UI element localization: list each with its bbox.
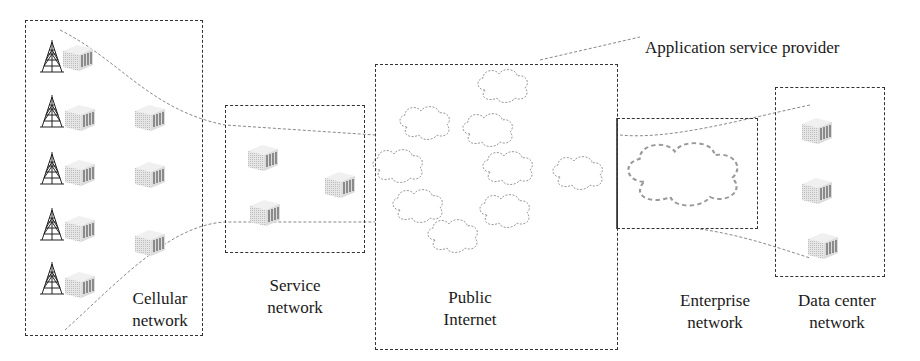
label-line2: Internet [420, 309, 520, 331]
label-line1: Public [420, 287, 520, 309]
label-public: Public Internet [420, 287, 520, 331]
label-line2: network [245, 297, 345, 319]
label-line2: network [782, 312, 892, 334]
callout-label: Application service provider [645, 37, 840, 59]
label-cellular: Cellular network [118, 288, 202, 332]
label-line2: network [118, 310, 202, 332]
label-enterprise: Enterprise network [660, 290, 770, 334]
datacenter-network-box [775, 87, 885, 277]
label-line1: Cellular [118, 288, 202, 310]
label-datacenter: Data center network [782, 290, 892, 334]
label-line1: Enterprise [660, 290, 770, 312]
label-line2: network [660, 312, 770, 334]
label-service: Service network [245, 275, 345, 319]
enterprise-network-box [617, 118, 758, 229]
label-line1: Data center [782, 290, 892, 312]
service-network-box [225, 105, 365, 253]
label-line1: Service [245, 275, 345, 297]
